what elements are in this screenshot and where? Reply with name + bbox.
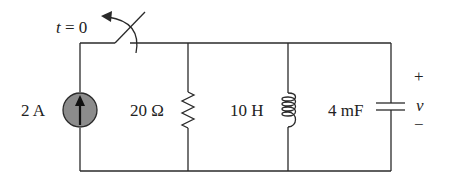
capacitor-label: 4 mF	[328, 101, 363, 120]
inductor-label: 10 H	[230, 101, 264, 120]
resistor-zigzag	[182, 92, 194, 128]
switch-arrow-head-icon	[101, 11, 112, 22]
switch: t = 0	[56, 11, 145, 53]
voltage-polarity: + v −	[414, 67, 424, 134]
current-source: 2 A	[21, 93, 97, 127]
switch-label: t = 0	[56, 18, 87, 37]
inductor-coil	[282, 93, 296, 127]
resistor: 20 Ω	[130, 92, 194, 128]
source-label: 2 A	[21, 101, 46, 120]
voltage-symbol: v	[416, 96, 424, 115]
switch-blade	[115, 12, 145, 43]
inductor: 10 H	[230, 93, 296, 127]
capacitor: 4 mF	[328, 101, 405, 120]
voltage-minus: −	[414, 115, 424, 134]
resistor-label: 20 Ω	[130, 101, 164, 120]
voltage-plus: +	[414, 67, 424, 86]
circuit-diagram: t = 0 2 A 20 Ω 10 H 4 mF + v −	[0, 0, 452, 187]
